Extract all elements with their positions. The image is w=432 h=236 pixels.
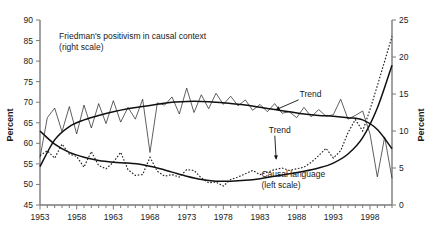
causal-label-line1: Causal language (261, 169, 325, 179)
right-tick-label: 0 (399, 200, 404, 210)
x-tick-label: 1988 (287, 212, 306, 222)
chart-figure: 45505560657075808590 0510152025 19531958… (0, 0, 432, 236)
left-tick-label: 50 (24, 179, 34, 189)
annotation-friedman: Friedman's positivism in causal context … (59, 31, 207, 52)
trend-lower-arrow (275, 136, 276, 159)
left-tick-label: 75 (24, 77, 34, 87)
left-tick-label: 85 (24, 36, 34, 46)
x-tick-label: 1968 (141, 212, 160, 222)
left-tick-label: 90 (24, 15, 34, 25)
x-axis-tick-labels: 1953195819631968197319781983198819931998 (31, 212, 380, 222)
y-axis-title-right: Percent (416, 108, 426, 141)
left-tick-label: 60 (24, 138, 34, 148)
annotation-causal: Causal language (left scale) (261, 169, 325, 190)
left-tick-label: 70 (24, 97, 34, 107)
left-tick-label: 55 (24, 159, 34, 169)
x-axis: 1953195819631968197319781983198819931998 (31, 205, 392, 222)
left-tick-label: 65 (24, 118, 34, 128)
right-axis-tick-labels: 0510152025 (399, 15, 409, 210)
x-tick-label: 1953 (31, 212, 50, 222)
annotation-trend-lower: Trend (269, 125, 291, 159)
x-tick-label: 1973 (177, 212, 196, 222)
chart-svg: 45505560657075808590 0510152025 19531958… (0, 0, 432, 236)
left-tick-label: 80 (24, 56, 34, 66)
series-smooth-trend (40, 101, 392, 166)
causal-label-line2: (left scale) (261, 180, 300, 190)
x-tick-label: 1998 (361, 212, 380, 222)
annotation-trend-upper: Trend (276, 89, 322, 110)
x-tick-label: 1963 (104, 212, 123, 222)
trend-upper-arrow (276, 100, 298, 110)
friedman-label-line2: (right scale) (59, 42, 104, 52)
x-tick-label: 1993 (324, 212, 343, 222)
left-tick-label: 45 (24, 200, 34, 210)
right-tick-label: 5 (399, 163, 404, 173)
right-tick-label: 10 (399, 126, 409, 136)
x-tick-label: 1978 (214, 212, 233, 222)
x-tick-label: 1983 (251, 212, 270, 222)
right-tick-label: 25 (399, 15, 409, 25)
x-tick-label: 1958 (67, 212, 86, 222)
right-axis: 0510152025 (392, 15, 409, 210)
trend-upper-label: Trend (300, 89, 322, 99)
data-series-layer (40, 36, 392, 186)
y-axis-title-left: Percent (5, 108, 15, 141)
right-tick-label: 20 (399, 52, 409, 62)
trend-lower-label: Trend (269, 125, 291, 135)
series-dotted (40, 36, 392, 186)
left-axis-tick-labels: 45505560657075808590 (24, 15, 34, 210)
right-tick-label: 15 (399, 89, 409, 99)
friedman-label-line1: Friedman's positivism in causal context (59, 31, 207, 41)
left-axis: 45505560657075808590 (24, 15, 40, 210)
